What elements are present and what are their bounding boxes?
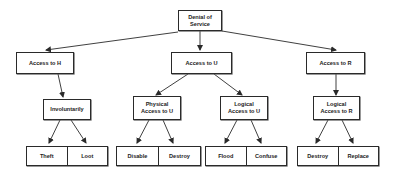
attack-tree-diagram: Denial of Service Access to H Access to … [0,0,397,179]
leaf-pair-physical-u: Disable Destroy [116,146,201,166]
node-label: Logical Access to R [320,101,352,115]
node-access-to-r: Access to R [306,52,365,74]
node-logical-access-to-u: Logical Access to U [220,96,268,120]
leaf-pair-involuntarily: Theft Loot [26,146,108,166]
edge-logical-r-destroy [316,120,328,143]
node-access-to-h: Access to H [16,52,74,74]
leaf-confuse: Confuse [246,147,287,165]
edge-root-access-r [222,31,336,50]
edge-involuntarily-loot [71,120,86,143]
node-label: Logical Access to U [228,101,260,115]
leaf-disable: Disable [117,147,158,165]
node-label: Access to R [319,60,351,67]
leaf-theft: Theft [27,147,67,165]
edge-access-u-physical [156,74,188,95]
edge-logical-r-replace [342,120,353,143]
edge-logical-u-flood [225,120,237,143]
node-logical-access-to-r: Logical Access to R [313,96,360,120]
leaf-pair-logical-u: Flood Confuse [205,146,287,166]
node-access-to-u: Access to U [171,52,232,74]
node-label: Denial of Service [188,14,212,28]
edge-physical-destroy [163,120,173,143]
edge-root-access-h [46,32,178,50]
leaf-destroy: Destroy [158,147,200,165]
edge-access-h-involuntarily [58,74,63,97]
node-involuntarily: Involuntarily [43,99,91,120]
leaf-destroy-r: Destroy [298,147,338,165]
edge-access-u-logical [214,74,242,95]
leaf-pair-logical-r: Destroy Replace [297,146,379,166]
node-label: Access to H [29,60,61,67]
edge-physical-disable [137,120,149,143]
node-label: Access to U [185,60,217,67]
node-label: Involuntarily [50,106,83,113]
leaf-loot: Loot [67,147,108,165]
edge-logical-u-confuse [251,120,261,143]
node-denial-of-service: Denial of Service [178,10,222,31]
leaf-flood: Flood [206,147,246,165]
edge-involuntarily-theft [49,120,60,143]
node-physical-access-to-u: Physical Access to U [133,96,181,120]
leaf-replace: Replace [338,147,379,165]
node-label: Physical Access to U [141,101,173,115]
